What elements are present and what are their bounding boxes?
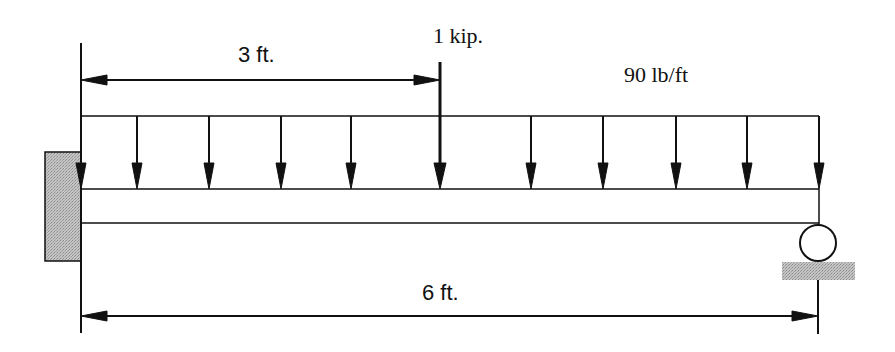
load-arrow-icon — [204, 116, 214, 189]
left-dimension-label: 3 ft. — [238, 42, 275, 67]
span-dimension-label: 6 ft. — [422, 280, 459, 305]
load-arrow-icon — [346, 116, 356, 189]
load-arrow-icon — [742, 116, 752, 189]
beam-diagram: 3 ft. 1 kip. 90 lb/ft 6 ft. — [0, 0, 895, 352]
dimension-3ft-arrow-icon — [81, 75, 440, 85]
load-arrow-icon — [671, 116, 681, 189]
beam — [81, 189, 819, 223]
distributed-load-label: 90 lb/ft — [624, 62, 688, 87]
roller-support-icon — [800, 225, 836, 261]
load-arrow-icon — [598, 116, 608, 189]
distributed-load-arrows — [76, 116, 824, 189]
dimension-6ft-arrow-icon — [81, 311, 818, 321]
load-arrow-icon — [814, 116, 824, 189]
load-arrow-icon — [526, 116, 536, 189]
point-load-label: 1 kip. — [433, 23, 483, 48]
roller-ground — [782, 262, 855, 280]
load-arrow-icon — [132, 116, 142, 189]
fixed-wall-support — [45, 152, 81, 261]
load-arrow-icon — [276, 116, 286, 189]
beam-diagram-svg: 3 ft. 1 kip. 90 lb/ft 6 ft. — [0, 0, 895, 352]
